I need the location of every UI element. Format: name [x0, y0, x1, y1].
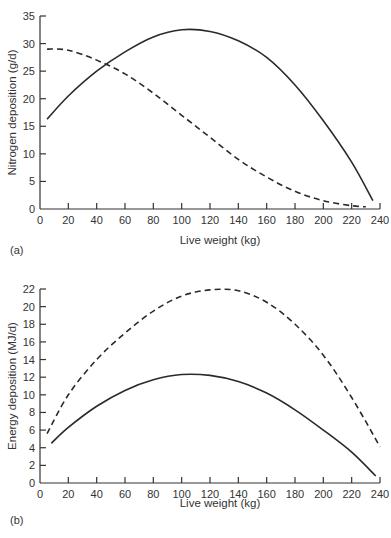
x-tick-label: 80 — [147, 214, 159, 226]
x-tick-label: 60 — [119, 488, 131, 500]
x-tick-label: 220 — [342, 488, 360, 500]
y-tick-label: 35 — [23, 10, 35, 22]
x-tick-label: 40 — [91, 488, 103, 500]
y-tick-label: 10 — [23, 148, 35, 160]
panel-a-chart: 0204060801001201401601802002202400510152… — [6, 10, 389, 256]
y-tick-label: 6 — [29, 424, 35, 436]
y-tick-label: 14 — [23, 354, 35, 366]
y-tick-label: 16 — [23, 336, 35, 348]
y-tick-label: 8 — [29, 406, 35, 418]
x-tick-label: 100 — [172, 214, 190, 226]
y-tick-label: 20 — [23, 301, 35, 313]
y-axis-title: Nitrogen deposition (g/d) — [6, 49, 18, 175]
panel-b-chart: 0204060801001201401601802002202400246810… — [6, 283, 389, 526]
y-tick-label: 25 — [23, 65, 35, 77]
figure: 0204060801001201401601802002202400510152… — [0, 0, 391, 538]
x-tick-label: 240 — [371, 214, 389, 226]
y-tick-label: 0 — [29, 203, 35, 215]
y-tick-label: 4 — [29, 442, 35, 454]
series-dashed-line — [47, 289, 380, 447]
x-tick-label: 0 — [37, 214, 43, 226]
x-tick-label: 180 — [286, 214, 304, 226]
panel-label: (a) — [10, 244, 23, 256]
x-tick-label: 160 — [257, 214, 275, 226]
series-solid-line — [47, 29, 373, 200]
x-tick-label: 80 — [147, 488, 159, 500]
x-tick-label: 20 — [62, 214, 74, 226]
x-axis-title: Live weight (kg) — [180, 234, 261, 246]
x-tick-label: 140 — [229, 214, 247, 226]
y-tick-label: 10 — [23, 389, 35, 401]
y-tick-label: 18 — [23, 318, 35, 330]
y-tick-label: 22 — [23, 283, 35, 295]
x-tick-label: 200 — [314, 214, 332, 226]
x-tick-label: 40 — [91, 214, 103, 226]
y-tick-label: 0 — [29, 477, 35, 489]
y-axis-title: Energy deposition (MJ/d) — [6, 322, 18, 450]
x-axis-title: Live weight (kg) — [180, 497, 261, 509]
y-tick-label: 30 — [23, 38, 35, 50]
y-tick-label: 20 — [23, 93, 35, 105]
panel-label: (b) — [10, 514, 23, 526]
x-tick-label: 240 — [371, 488, 389, 500]
y-tick-label: 5 — [29, 175, 35, 187]
x-tick-label: 120 — [201, 214, 219, 226]
series-solid-line — [51, 374, 375, 476]
y-tick-label: 15 — [23, 120, 35, 132]
x-tick-label: 60 — [119, 214, 131, 226]
x-tick-label: 20 — [62, 488, 74, 500]
x-tick-label: 180 — [286, 488, 304, 500]
x-tick-label: 0 — [37, 488, 43, 500]
y-tick-label: 12 — [23, 371, 35, 383]
y-tick-label: 2 — [29, 459, 35, 471]
x-tick-label: 200 — [314, 488, 332, 500]
x-tick-label: 220 — [342, 214, 360, 226]
